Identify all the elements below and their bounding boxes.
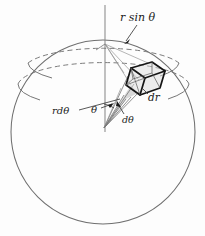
radial-ray-5 bbox=[104, 95, 124, 128]
r-sin-theta-leader-line bbox=[126, 25, 137, 41]
label-r-sin-theta: r sin θ bbox=[120, 11, 155, 24]
spherical-coordinates-figure: r sin θ dr rdθ θ dθ bbox=[0, 0, 205, 236]
sphere-outline-circle bbox=[11, 40, 195, 224]
label-dr: dr bbox=[148, 91, 161, 103]
latitude-upper-back-arc bbox=[28, 48, 179, 63]
latitude-circle-lower bbox=[18, 63, 189, 100]
latitude-lower-front-left bbox=[18, 84, 40, 100]
label-r-dtheta: rdθ bbox=[52, 105, 69, 116]
figure-canvas: r sin θ dr rdθ θ dθ bbox=[0, 0, 205, 236]
leader-r-sin-theta bbox=[124, 25, 137, 44]
label-dtheta: dθ bbox=[122, 114, 134, 125]
axis-point-tick bbox=[96, 44, 105, 50]
label-theta: θ bbox=[91, 104, 97, 115]
